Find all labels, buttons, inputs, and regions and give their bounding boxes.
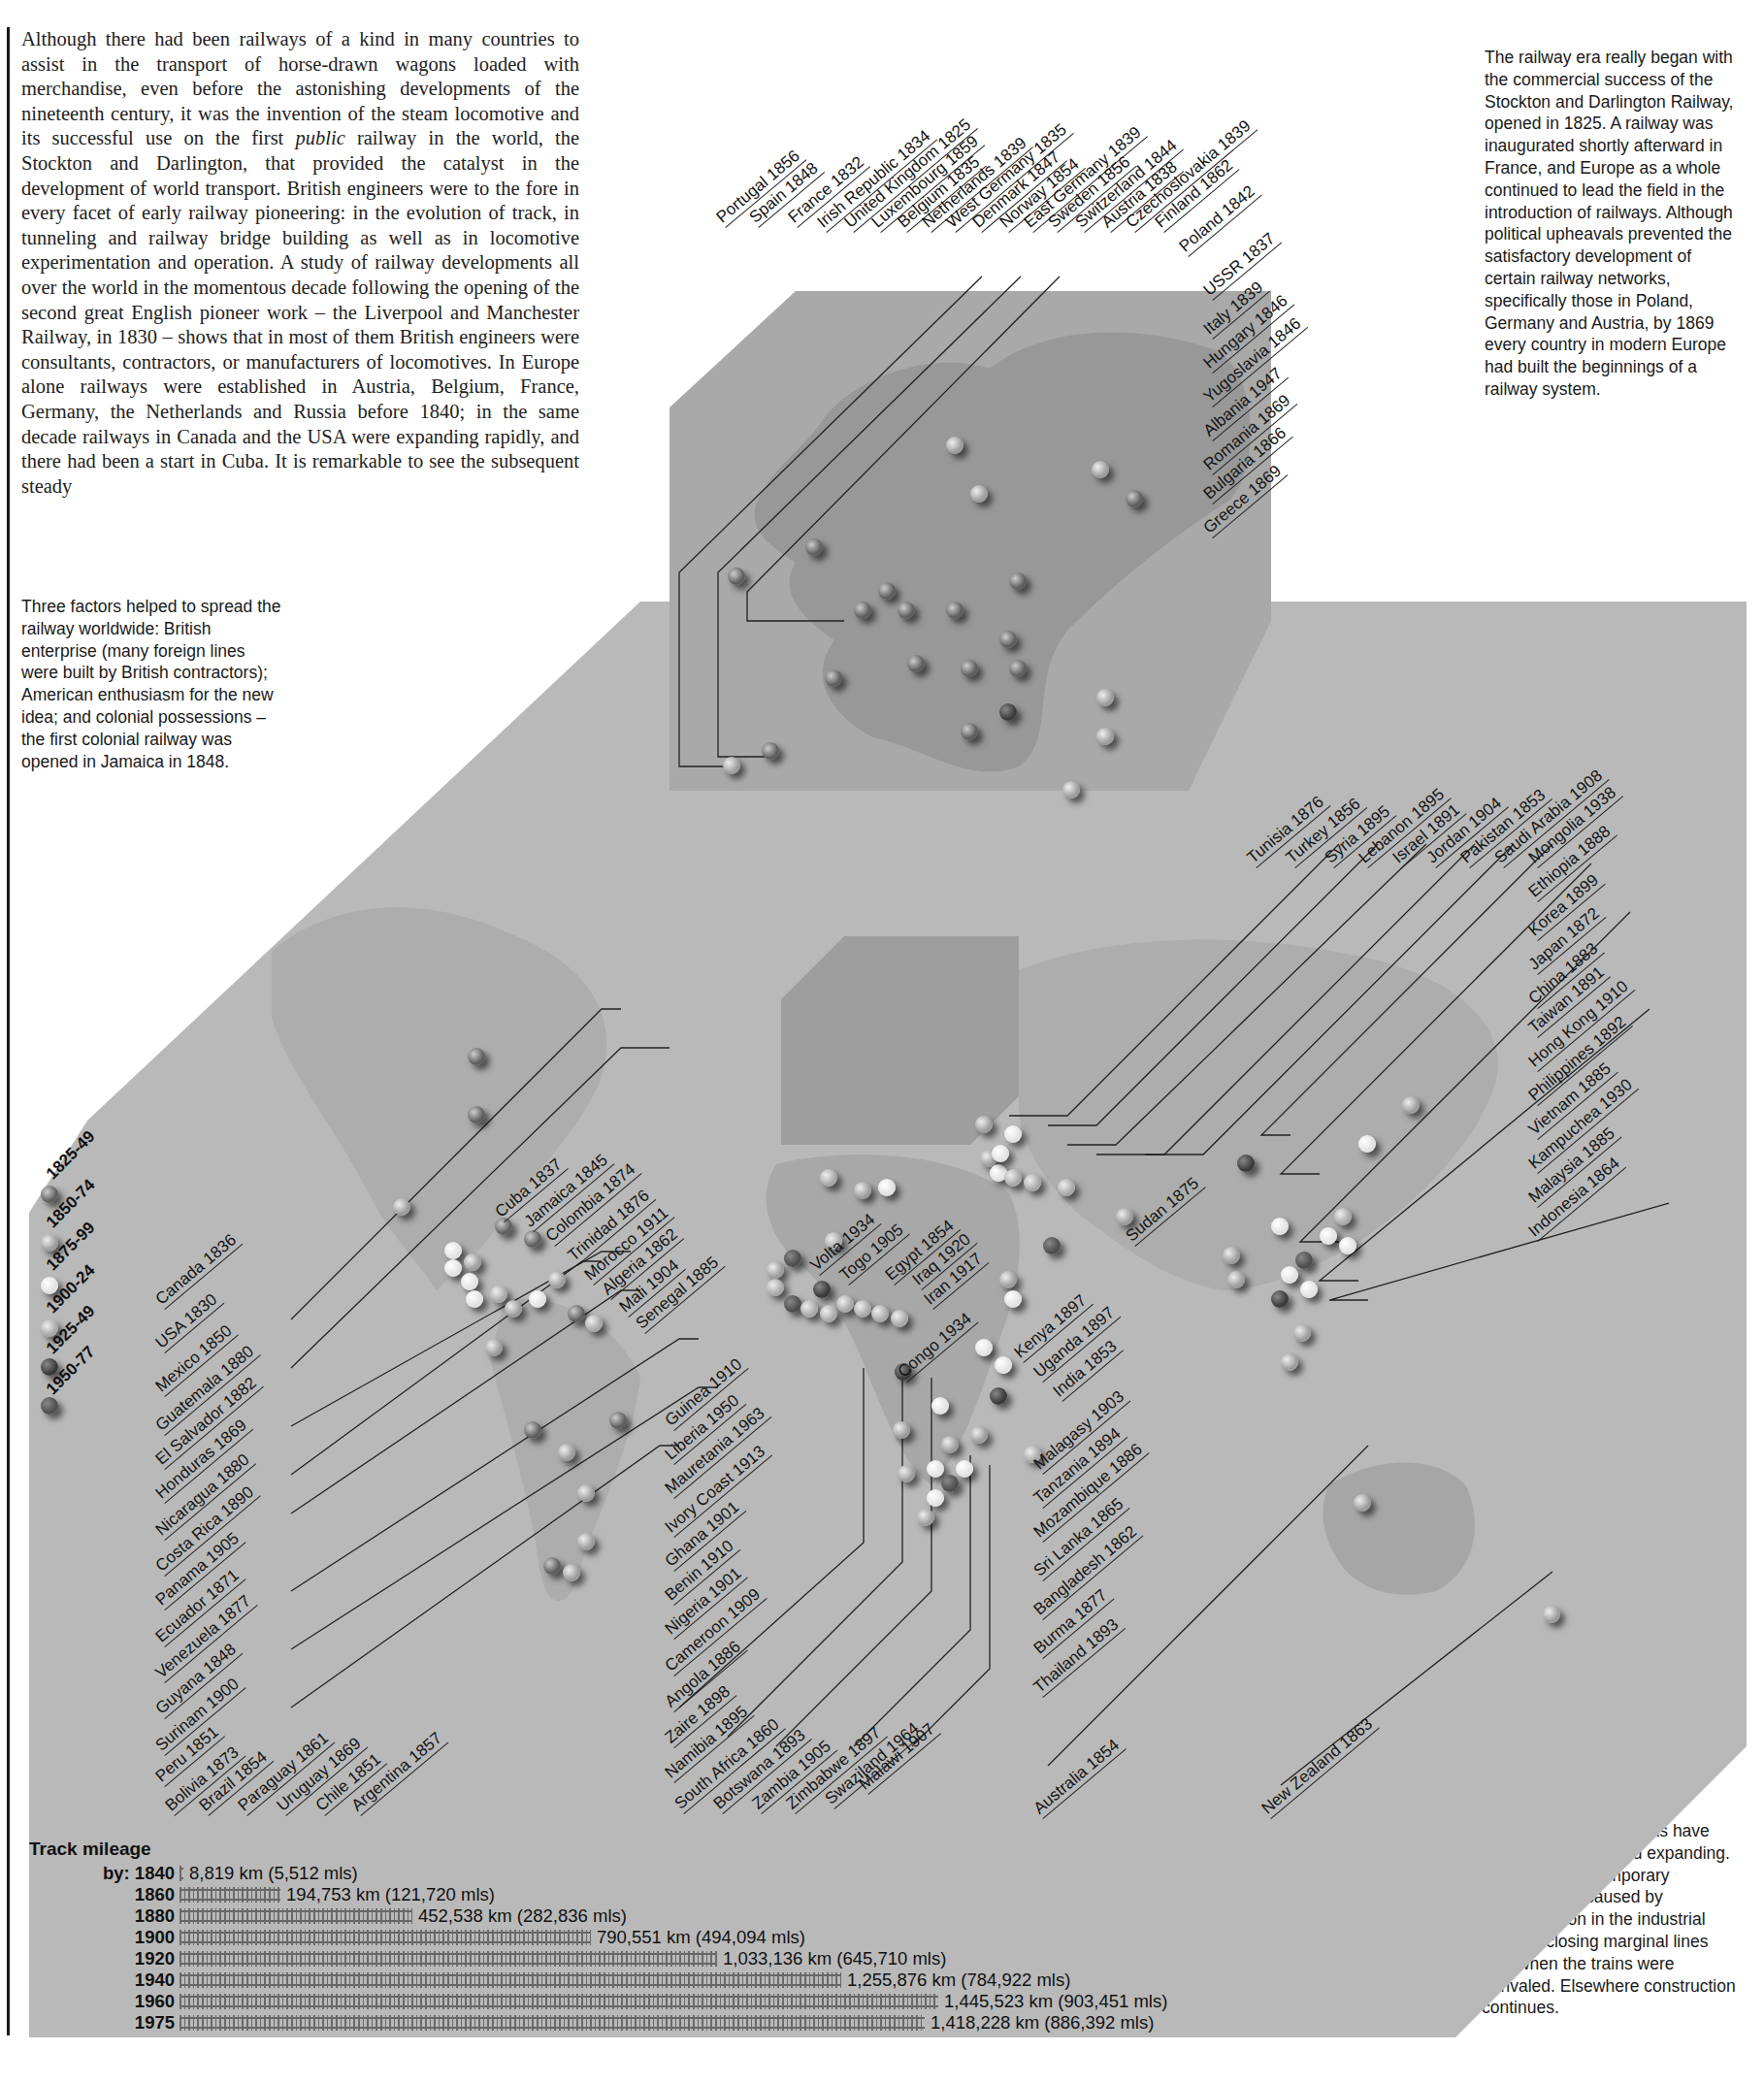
legend-swatch-1825-49 — [41, 1186, 58, 1203]
pin-norway — [946, 437, 964, 454]
pin-ethiopia — [1004, 1290, 1022, 1308]
pin-senegal — [767, 1261, 784, 1279]
pin-bulgaria — [1096, 728, 1114, 745]
track-bar — [180, 1908, 412, 1924]
pin-lebanon — [1004, 1125, 1022, 1143]
track-value: 452,538 km (282,836 mls) — [412, 1905, 627, 1927]
pin-kenya — [975, 1339, 993, 1356]
pin-ussr — [1126, 490, 1143, 507]
pin-france — [825, 669, 842, 687]
track-year: 1860 — [78, 1884, 180, 1905]
pin-bolivia — [558, 1444, 575, 1461]
pin-china — [1271, 1218, 1289, 1235]
pin-algeria — [854, 1182, 871, 1199]
track-row-1920: 1920 1,033,136 km (645,710 mls) — [78, 1949, 946, 1969]
track-bar — [180, 1887, 280, 1903]
pin-new-zealand — [1543, 1606, 1560, 1623]
track-bar — [180, 1994, 938, 2009]
track-mileage-title: Track mileage — [29, 1839, 151, 1860]
pin-usa — [468, 1106, 485, 1123]
pin-hungary — [1009, 660, 1027, 677]
pin-west-germany — [898, 602, 915, 619]
pin-south-africa — [927, 1489, 944, 1507]
pin-greece — [1062, 781, 1080, 798]
pin-uk — [805, 538, 823, 556]
pin-tunisia — [878, 1179, 896, 1196]
pin-austria — [961, 660, 978, 677]
pin-turkey — [975, 1116, 993, 1133]
pin-mauretania — [784, 1250, 801, 1267]
track-value: 1,418,228 km (886,392 mls) — [925, 2012, 1154, 2034]
pin-volta — [813, 1281, 831, 1298]
pin-netherlands — [878, 582, 896, 600]
pin-hong-kong — [1334, 1208, 1352, 1225]
pin-ivory-coast — [800, 1300, 818, 1318]
pin-guatemala — [444, 1242, 462, 1259]
track-row-1840: by: 1840 8,819 km (5,512 mls) — [78, 1864, 358, 1883]
pin-uganda — [995, 1356, 1012, 1374]
pin-nigeria — [871, 1305, 889, 1322]
pin-venezuela — [505, 1300, 522, 1318]
pin-liberia — [784, 1295, 801, 1313]
track-value: 790,551 km (494,094 mls) — [591, 1927, 805, 1948]
track-year: by: 1840 — [78, 1863, 180, 1884]
track-year: 1940 — [78, 1969, 180, 1991]
pin-ghana — [820, 1305, 837, 1322]
pin-panama — [490, 1286, 507, 1303]
track-bar — [180, 1951, 717, 1967]
pin-ecuador — [485, 1339, 503, 1356]
pin-malaysia — [1293, 1324, 1311, 1342]
track-bar — [180, 1972, 841, 1988]
pin-indonesia — [1281, 1353, 1298, 1371]
pin-peru — [524, 1421, 541, 1439]
pin-guyana — [568, 1305, 585, 1322]
pin-argentina — [563, 1564, 580, 1581]
pin-spain — [762, 742, 779, 760]
track-row-1880: 1880 452,538 km (282,836 mls) — [78, 1906, 627, 1926]
pin-romania — [1096, 689, 1114, 706]
pin-costa-rica — [466, 1290, 483, 1308]
world-europe-inset — [781, 936, 1019, 1145]
pin-belgium — [854, 602, 871, 619]
pin-mexico — [393, 1198, 410, 1216]
track-year: 1920 — [78, 1948, 180, 1969]
pin-india — [1223, 1247, 1240, 1264]
pin-sweden — [970, 485, 988, 503]
pin-zimbabwe — [956, 1460, 973, 1478]
pin-kampuchea — [1271, 1290, 1289, 1308]
pin-malawi — [898, 1465, 915, 1482]
pin-switzerland — [907, 655, 925, 672]
pin-sudan — [999, 1271, 1017, 1288]
pin-iraq — [1024, 1174, 1041, 1191]
pin-nicaragua — [461, 1273, 478, 1290]
pin-ireland — [728, 568, 745, 585]
pin-uruguay — [577, 1533, 595, 1550]
track-bar — [180, 1930, 591, 1945]
track-bar — [180, 2015, 925, 2031]
pin-surinam — [585, 1315, 603, 1332]
pin-swaziland — [941, 1475, 959, 1492]
track-row-1940: 1940 1,255,876 km (784,922 mls) — [78, 1970, 1070, 1990]
track-value: 1,445,523 km (903,451 mls) — [938, 1991, 1167, 2012]
pin-zaire — [990, 1387, 1007, 1405]
pin-guinea — [767, 1279, 784, 1296]
pin-benin — [854, 1300, 871, 1318]
pin-angola — [931, 1397, 949, 1415]
pin-togo — [836, 1295, 854, 1313]
pin-colombia — [529, 1290, 546, 1308]
track-year: 1900 — [78, 1927, 180, 1948]
pin-italy — [961, 723, 978, 740]
pin-jamaica — [524, 1230, 541, 1248]
pin-portugal — [723, 757, 740, 774]
pin-namibia — [893, 1421, 910, 1439]
pin-poland — [1009, 572, 1027, 590]
track-year: 1975 — [78, 2012, 180, 2034]
track-value: 194,753 km (121,720 mls) — [280, 1884, 495, 1905]
pin-trinidad — [548, 1271, 566, 1288]
pin-finland — [1092, 461, 1109, 478]
pin-mozambique — [917, 1509, 934, 1526]
pin-chile — [543, 1557, 561, 1575]
pin-iran — [1058, 1179, 1075, 1196]
track-year: 1960 — [78, 1991, 180, 2012]
pin-thailand — [1300, 1281, 1318, 1298]
